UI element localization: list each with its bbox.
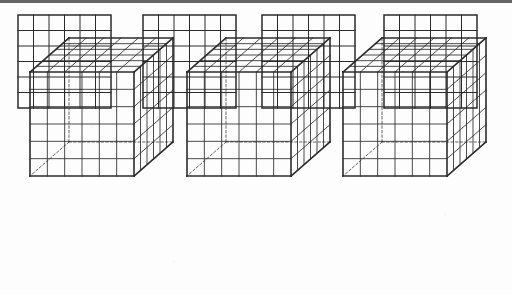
unit-cubes-group xyxy=(30,38,486,176)
square-grid-4 xyxy=(384,15,477,108)
figure-canvas xyxy=(0,0,512,297)
figure-root xyxy=(0,0,512,297)
square-grids-group xyxy=(18,15,477,108)
unit-cube-1 xyxy=(30,38,173,176)
scan-border-top xyxy=(0,0,512,3)
square-grid-3 xyxy=(262,15,355,108)
